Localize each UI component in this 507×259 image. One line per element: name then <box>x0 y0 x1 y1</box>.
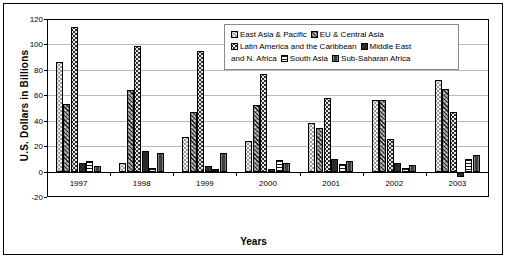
y-axis-tick-label: 60 <box>34 91 43 100</box>
y-axis-tick-label: 80 <box>34 65 43 74</box>
y-axis-tick-mark <box>44 146 47 147</box>
y-axis-tick-label: 100 <box>30 40 43 49</box>
y-axis-tick-mark <box>44 70 47 71</box>
legend-item-eu-central-asia: EU & Central Asia <box>311 30 384 39</box>
y-axis-tick-label: 40 <box>34 116 43 125</box>
legend-item-latin-america: Latin America and the Caribbean <box>231 42 357 51</box>
x-axis-label-1998: 1998 <box>133 179 151 188</box>
south-asia-swatch-icon <box>281 55 288 62</box>
legend-label-middle-east: Middle East <box>370 42 412 51</box>
y-axis-tick-mark <box>44 95 47 96</box>
y-axis-tick-mark <box>44 197 47 198</box>
bar-chart: U.S. Dollars in Billions -20020406080100… <box>0 0 507 259</box>
legend-item-sub-saharan-africa: Sub-Saharan Africa <box>332 54 410 63</box>
legend-label-east-asia-pacific: East Asia & Pacific <box>240 30 307 39</box>
y-axis-tick-label: 0 <box>39 167 43 176</box>
x-axis-label-2001: 2001 <box>322 179 340 188</box>
sub-saharan-africa-swatch-icon <box>332 55 339 62</box>
y-axis-title: U.S. Dollars in Billions <box>19 16 30 196</box>
east-asia-pacific-swatch-icon <box>231 31 238 38</box>
y-axis-tick-mark <box>44 121 47 122</box>
legend-row-2: Latin America and the CaribbeanMiddle Ea… <box>231 41 453 53</box>
y-axis-tick-label: 20 <box>34 142 43 151</box>
legend-label-south-asia: South Asia <box>290 54 328 63</box>
y-axis-tick-mark <box>44 19 47 20</box>
x-axis-label-2003: 2003 <box>449 179 467 188</box>
legend-label-sub-saharan-africa: Sub-Saharan Africa <box>341 54 410 63</box>
legend-item-east-asia-pacific: East Asia & Pacific <box>231 30 307 39</box>
y-axis-tick-mark <box>44 44 47 45</box>
eu-central-asia-swatch-icon <box>311 31 318 38</box>
legend-label-latin-america: Latin America and the Caribbean <box>240 42 357 51</box>
x-axis-label-2000: 2000 <box>259 179 277 188</box>
y-axis-tick-mark <box>44 172 47 173</box>
y-axis-tick-label: -20 <box>31 193 43 202</box>
legend-item-south-asia: South Asia <box>281 54 328 63</box>
chart-legend: East Asia & PacificEU & Central Asia Lat… <box>224 24 459 70</box>
latin-america-swatch-icon <box>231 43 238 50</box>
legend-label-eu-central-asia: EU & Central Asia <box>320 30 384 39</box>
x-axis-label-2002: 2002 <box>385 179 403 188</box>
x-axis-label-1997: 1997 <box>70 179 88 188</box>
legend-label-middle-east-cont: and N. Africa <box>231 54 277 63</box>
x-axis-title: Years <box>0 236 507 247</box>
legend-row-1: East Asia & PacificEU & Central Asia <box>231 29 453 41</box>
legend-row-3: and N. AfricaSouth AsiaSub-Saharan Afric… <box>231 53 453 65</box>
x-axis-label-1999: 1999 <box>196 179 214 188</box>
y-axis-tick-label: 120 <box>30 15 43 24</box>
middle-east-swatch-icon <box>361 43 368 50</box>
legend-item-middle-east: Middle East <box>361 42 412 51</box>
